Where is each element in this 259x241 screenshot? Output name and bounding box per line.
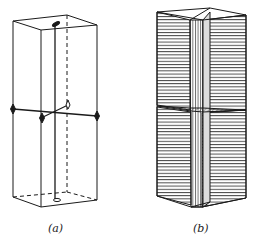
axis-top-marker (52, 21, 61, 28)
crystal-diagram (0, 0, 259, 241)
diamond-front (40, 113, 45, 123)
panel-b (157, 8, 246, 207)
caption-a: (a) (48, 222, 63, 235)
panel-a (11, 15, 100, 207)
diamond-right (95, 111, 100, 121)
diamond-left (11, 104, 16, 114)
caption-b: (b) (193, 222, 209, 235)
lower-left-face (157, 107, 191, 205)
axis-bottom-marker (54, 198, 61, 201)
upper-left-face (157, 12, 190, 110)
central-slab (190, 20, 203, 207)
